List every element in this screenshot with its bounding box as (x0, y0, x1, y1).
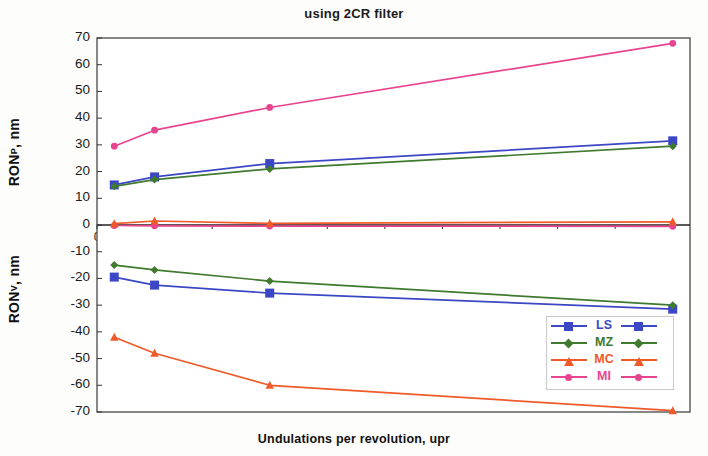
legend-marker-glyph (564, 357, 574, 366)
legend-marker-mc (621, 353, 657, 366)
legend-marker-mi (621, 370, 657, 383)
legend-marker-mz (551, 336, 587, 349)
legend-label: MC (590, 353, 618, 366)
legend-item-mc[interactable]: MC (547, 351, 673, 368)
legend-label: LS (590, 319, 618, 332)
data-marker (265, 289, 274, 298)
legend-marker-mz (621, 336, 657, 349)
data-marker (111, 143, 118, 150)
legend-marker-ls (621, 319, 657, 332)
data-marker (266, 104, 273, 111)
legend-marker-glyph (634, 322, 643, 331)
data-marker (150, 281, 159, 290)
legend-marker-glyph (564, 322, 573, 331)
chart-legend: LSMZMCMI (546, 316, 674, 390)
legend-marker-glyph (635, 374, 642, 381)
legend-marker-glyph (634, 357, 644, 366)
legend-marker-glyph (565, 374, 572, 381)
legend-marker-glyph (634, 339, 644, 349)
legend-label: MI (590, 370, 618, 383)
legend-marker-mi (551, 370, 587, 383)
series-line (114, 226, 672, 227)
legend-marker-ls (551, 319, 587, 332)
data-marker (151, 127, 158, 134)
legend-label: MZ (590, 336, 618, 349)
legend-item-mz[interactable]: MZ (547, 334, 673, 351)
legend-item-ls[interactable]: LS (547, 317, 673, 334)
legend-marker-glyph (564, 339, 574, 349)
chart-figure: using 2CR filter RONP, nm RONV, nm Undul… (0, 0, 708, 456)
data-marker (110, 273, 119, 282)
legend-marker-mc (551, 353, 587, 366)
legend-item-mi[interactable]: MI (547, 368, 673, 385)
data-marker (669, 40, 676, 47)
